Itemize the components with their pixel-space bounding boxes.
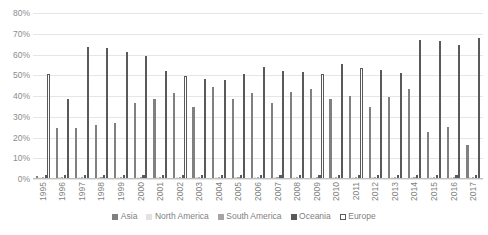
legend-label: Oceania [299,212,331,221]
x-axis-tick-label: 2005 [234,182,243,201]
bar-asia[interactable] [427,132,429,179]
x-axis-tick-label: 1998 [97,182,106,201]
y-axis-tick-label: 30% [13,112,30,121]
y-axis-tick-label: 0% [18,175,30,184]
bar-asia[interactable] [192,107,194,179]
legend-item-oceania[interactable]: Oceania [291,212,331,221]
bar-asia[interactable] [388,97,390,179]
chart-legend: AsiaNorth AmericaSouth AmericaOceaniaEur… [0,212,488,221]
x-axis-tick-label: 2011 [351,182,360,200]
y-axis-tick-label: 20% [13,133,30,142]
x-axis-tick: 2006 [248,181,268,213]
legend-label: South America [226,212,281,221]
bar-group [346,13,366,179]
legend-swatch-icon [146,214,152,220]
legend-item-asia[interactable]: Asia [112,212,137,221]
bar-europe[interactable] [439,41,441,179]
y-axis-tick-label: 80% [13,9,30,18]
bar-asia[interactable] [114,123,116,179]
bar-europe[interactable] [204,79,206,179]
bar-group [229,13,249,179]
x-axis-tick-label: 2003 [195,182,204,201]
bar-chart: 80%70%60%50%40%30%20%10%0% 1995199619971… [0,0,488,235]
x-axis-tick-label: 1999 [117,182,126,201]
x-axis-tick: 2005 [229,181,249,213]
bar-asia[interactable] [310,89,312,179]
bar-group [209,13,229,179]
x-axis-tick-label: 2007 [273,182,282,201]
x-axis-tick-label: 2009 [312,182,321,201]
bar-groups [33,13,483,179]
y-axis-tick-label: 40% [13,92,30,101]
bar-asia[interactable] [251,93,253,179]
bar-europe[interactable] [243,74,245,179]
bar-asia[interactable] [134,103,136,179]
x-axis-tick: 2007 [268,181,288,213]
x-axis-tick: 2015 [424,181,444,213]
legend-label: Europe [348,212,375,221]
bar-group [287,13,307,179]
bar-asia[interactable] [212,87,214,179]
x-axis-tick-label: 2001 [156,182,165,201]
x-axis-tick: 1995 [33,181,53,213]
x-axis-tick-label: 2012 [371,182,380,201]
bar-asia[interactable] [290,92,292,179]
legend-item-north-america[interactable]: North America [146,212,208,221]
bar-asia[interactable] [408,89,410,179]
x-axis-tick-label: 2015 [430,182,439,201]
legend-swatch-icon [291,214,297,220]
bar-group [385,13,405,179]
bar-europe[interactable] [263,67,265,179]
bar-asia[interactable] [56,128,58,179]
bar-asia[interactable] [447,127,449,179]
bar-asia[interactable] [173,93,175,179]
legend-label: Asia [121,212,138,221]
legend-swatch-icon [340,214,346,220]
bar-europe[interactable] [321,74,323,179]
bar-asia[interactable] [75,128,77,179]
bar-group [268,13,288,179]
bar-group [366,13,386,179]
x-axis-tick-label: 2013 [390,182,399,201]
bar-group [307,13,327,179]
bar-europe[interactable] [341,64,343,179]
legend-item-europe[interactable]: Europe [340,212,376,221]
bar-europe[interactable] [282,71,284,179]
bar-asia[interactable] [329,99,331,179]
bar-europe[interactable] [145,56,147,179]
bar-europe[interactable] [400,73,402,179]
legend-swatch-icon [218,214,224,220]
bar-europe[interactable] [184,76,186,179]
bar-europe[interactable] [87,47,89,179]
bar-asia[interactable] [153,99,155,179]
legend-item-south-america[interactable]: South America [218,212,282,221]
bar-europe[interactable] [419,40,421,179]
bar-europe[interactable] [67,99,69,179]
bar-europe[interactable] [224,80,226,179]
bar-europe[interactable] [458,45,460,179]
bar-europe[interactable] [126,52,128,179]
bar-asia[interactable] [466,145,468,179]
x-axis-tick-label: 2016 [449,182,458,201]
x-axis-tick-label: 1995 [38,182,47,201]
x-axis-tick: 1999 [111,181,131,213]
bar-europe[interactable] [360,68,362,179]
bar-asia[interactable] [369,107,371,179]
gridline [33,179,483,180]
bar-europe[interactable] [106,48,108,179]
bar-group [463,13,483,179]
bar-asia[interactable] [95,125,97,179]
y-axis-tick-label: 70% [13,29,30,38]
legend-label: North America [155,212,209,221]
bar-asia[interactable] [232,99,234,179]
bar-europe[interactable] [380,70,382,179]
bar-europe[interactable] [165,71,167,179]
bar-group [444,13,464,179]
x-axis-line [33,178,483,179]
bar-europe[interactable] [47,74,49,179]
bar-asia[interactable] [349,96,351,179]
x-axis-tick: 1996 [53,181,73,213]
bar-europe[interactable] [478,38,480,179]
bar-europe[interactable] [302,72,304,179]
bar-asia[interactable] [271,103,273,179]
